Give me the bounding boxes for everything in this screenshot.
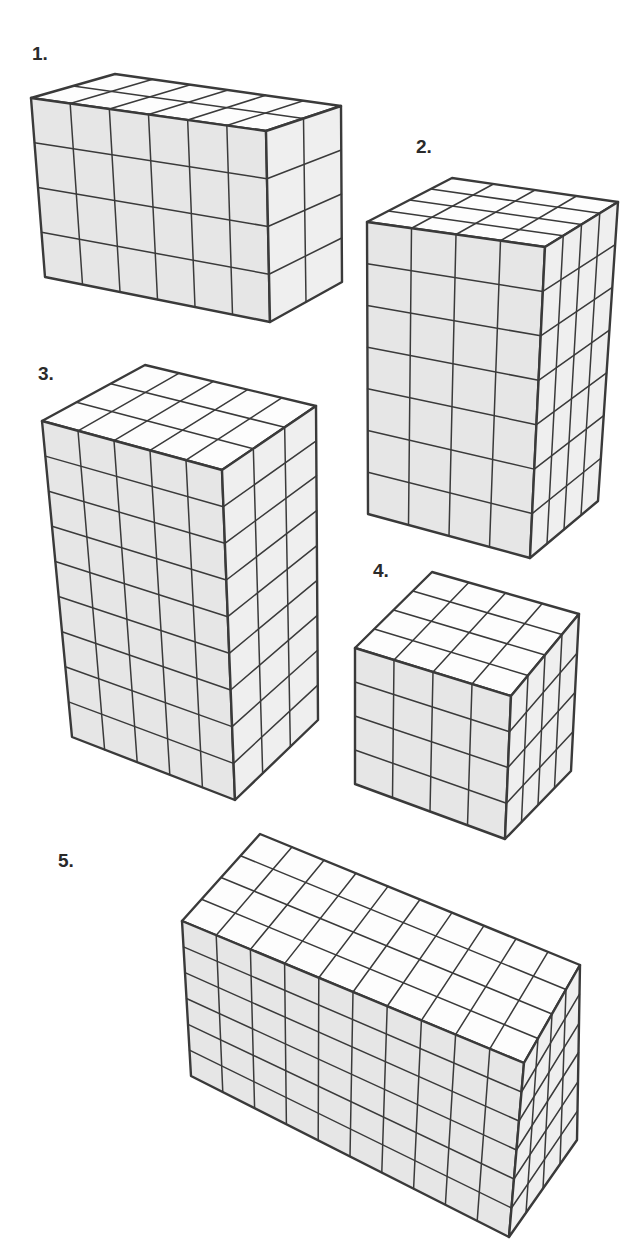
front-face: [42, 421, 235, 800]
side-face: [266, 106, 342, 322]
figure-5-label: 5.: [58, 850, 74, 872]
figure-2-label: 2.: [416, 136, 432, 158]
figure-4-label: 4.: [373, 560, 389, 582]
prisms-canvas: [0, 0, 641, 1255]
side-face: [222, 406, 318, 800]
prism-figure-2: [367, 178, 618, 558]
rectangular-prisms-diagram: 1. 2. 3. 4. 5.: [0, 0, 641, 1255]
front-face: [367, 222, 545, 558]
prism-figure-4: [355, 572, 579, 839]
prism-figure-1: [31, 74, 342, 322]
figure-1-label: 1.: [32, 43, 48, 65]
front-face: [31, 98, 270, 322]
figure-3-label: 3.: [38, 363, 54, 385]
prism-figure-3: [42, 365, 318, 800]
prism-figure-5: [182, 834, 580, 1237]
